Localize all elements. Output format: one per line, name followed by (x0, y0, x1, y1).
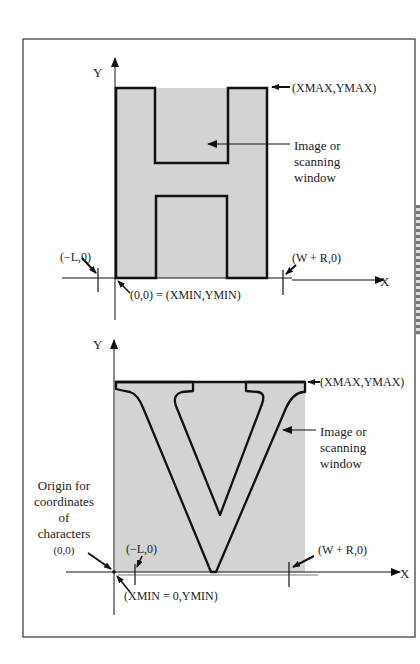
v-origin-note-line: characters (26, 526, 102, 542)
h-origin-arrow (118, 281, 130, 293)
h-diagram (62, 58, 384, 320)
h-max-corner-label: (XMAX,YMAX) (292, 81, 376, 96)
v-x-axis-label: X (400, 566, 409, 581)
v-origin-dot (112, 570, 116, 574)
v-origin-note-line: Origin for (26, 478, 102, 494)
figure: Y X (XMAX,YMAX) Image or scanning window… (0, 0, 420, 664)
h-right-bearing-arrow (286, 265, 296, 274)
h-left-bearing-label: (−L,0) (60, 250, 91, 265)
v-origin-note-line: coordinates (26, 494, 102, 510)
h-window-label-line: Image or (294, 138, 341, 154)
v-origin-note-line: of (26, 510, 102, 526)
h-window-label-line: window (294, 170, 341, 186)
v-window-label-line: Image or (320, 424, 367, 440)
v-origin-note: Origin for coordinates of characters (0,… (26, 478, 102, 558)
v-left-bearing-label: (−L,0) (126, 542, 157, 557)
v-window-label-line: scanning (320, 440, 367, 456)
h-y-axis-label: Y (93, 65, 102, 80)
v-y-axis-label: Y (93, 337, 102, 352)
h-x-axis-label: X (380, 274, 389, 289)
v-origin-note-line: (0,0) (26, 542, 102, 558)
h-window-label-line: scanning (294, 154, 341, 170)
h-window-label: Image or scanning window (294, 138, 341, 186)
h-scanning-window (116, 88, 267, 278)
v-max-corner-label: (XMAX,YMAX) (320, 375, 404, 390)
scan-edge-artifact (416, 205, 420, 335)
v-window-label: Image or scanning window (320, 424, 367, 472)
v-right-bearing-label: (W + R,0) (318, 543, 367, 558)
h-origin-label: (0,0) = (XMIN,YMIN) (130, 288, 241, 303)
v-window-label-line: window (320, 456, 367, 472)
v-min-label: (XMIN = 0,YMIN) (124, 589, 218, 604)
h-right-bearing-label: (W + R,0) (292, 251, 341, 266)
